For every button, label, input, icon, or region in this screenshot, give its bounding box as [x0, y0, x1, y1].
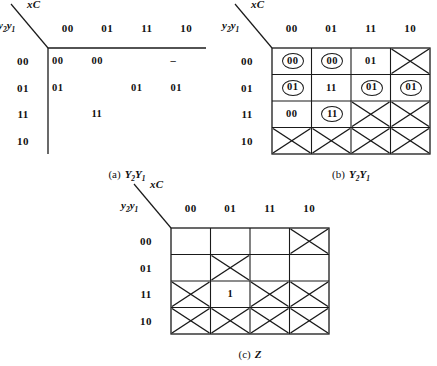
dont-care-x-mark [273, 129, 311, 154]
caption-function: Y2Y1 [125, 168, 146, 180]
caption-tag: (b) [332, 168, 345, 180]
dont-care-x-mark [392, 102, 430, 127]
kmap-cell-r00-c00: 00 [52, 56, 74, 67]
kmap-cell-r11-c01: 11 [92, 109, 114, 120]
kmap-cell-r01-c00: 01 [282, 80, 304, 96]
kmap-grid [123, 180, 333, 338]
dont-care-x-mark [352, 102, 390, 127]
kmap-axes [0, 0, 210, 158]
kmap-cell-r01-c11: 01 [361, 80, 383, 96]
dont-care-x-mark [212, 256, 250, 281]
kmap-cell-r00-c10: – [171, 56, 193, 67]
kmap-cell-r01-c11: 01 [131, 83, 153, 94]
caption-tag: (c) [239, 348, 251, 360]
caption-function: Z [255, 348, 262, 360]
dont-care-x-mark [172, 309, 210, 334]
dont-care-x-mark [392, 49, 430, 74]
figure-caption-c: (c)Z [131, 348, 369, 360]
kmap-cell-r01-c00: 01 [52, 83, 74, 94]
dont-care-x-mark [172, 282, 210, 307]
kmap-grid [224, 0, 434, 158]
dont-care-x-mark [313, 129, 351, 154]
dont-care-x-mark [291, 309, 329, 334]
kmap-cell-r00-c11: 01 [360, 56, 382, 67]
kmap-cell-r01-c10: 01 [171, 83, 193, 94]
dont-care-x-mark [291, 229, 329, 254]
kmap-cell-r01-c01: 11 [320, 83, 342, 94]
kmap-cell-r00-c01: 00 [92, 56, 114, 67]
kmap-cell-r01-c10: 01 [400, 80, 422, 96]
caption-tag: (a) [108, 168, 120, 180]
kmap-cell-r00-c00: 00 [282, 53, 304, 69]
dont-care-x-mark [352, 129, 390, 154]
dont-care-x-mark [251, 309, 289, 334]
dont-care-x-mark [251, 282, 289, 307]
dont-care-x-mark [212, 309, 250, 334]
dont-care-x-mark [291, 282, 329, 307]
caption-function: Y2Y1 [349, 168, 370, 180]
dont-care-x-mark [392, 129, 430, 154]
kmap-cell-r11-c01: 1 [219, 289, 241, 300]
kmap-cell-r11-c00: 00 [281, 109, 303, 120]
